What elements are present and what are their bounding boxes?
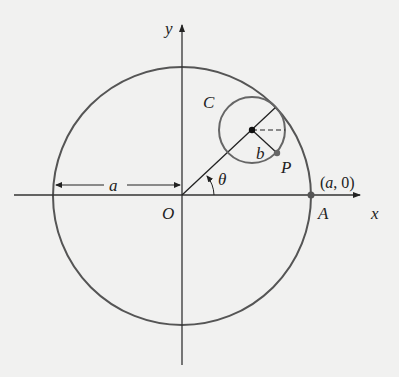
point-p-label: P <box>280 158 291 177</box>
diagram: y x O a θ C b P A (a, 0) <box>0 0 399 377</box>
diagram-canvas: y x O a θ C b P A (a, 0) <box>0 0 399 377</box>
small-radius-label: b <box>256 144 265 163</box>
x-axis-label: x <box>370 204 379 223</box>
theta-label: θ <box>218 170 226 189</box>
point-a-label: A <box>317 204 329 223</box>
point-a <box>308 192 315 199</box>
small-circle-label: C <box>203 93 215 112</box>
radius-a-label: a <box>109 176 118 195</box>
theta-arc <box>207 176 214 195</box>
small-circle-center-point <box>249 127 255 133</box>
point-a-coordinates: (a, 0) <box>320 174 355 192</box>
y-axis-label: y <box>163 19 173 38</box>
origin-label: O <box>162 204 174 223</box>
point-p <box>274 150 280 156</box>
